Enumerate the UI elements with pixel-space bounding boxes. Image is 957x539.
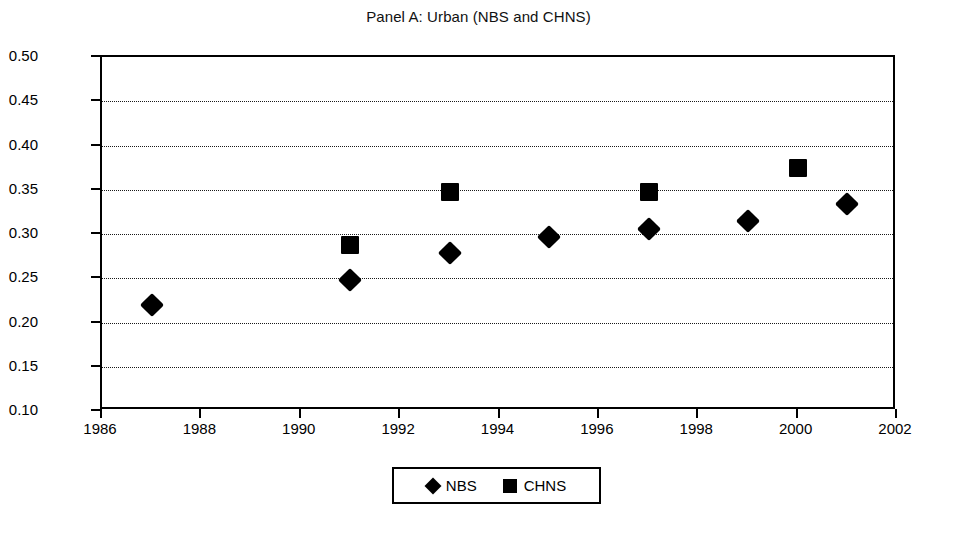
plot-area: [100, 55, 895, 409]
legend-label: NBS: [446, 477, 477, 494]
x-tick-mark: [796, 409, 798, 418]
square-marker-icon: [503, 479, 517, 493]
data-point-chns: [441, 183, 459, 201]
legend-label: CHNS: [524, 477, 567, 494]
data-point-nbs: [338, 268, 362, 292]
gridline-y: [102, 234, 893, 235]
gridline-y: [102, 323, 893, 324]
data-point-nbs: [637, 217, 661, 241]
data-point-chns: [789, 159, 807, 177]
gridline-y: [102, 367, 893, 368]
x-tick-label: 1990: [282, 420, 315, 437]
x-tick-mark: [398, 409, 400, 418]
x-tick-mark: [895, 409, 897, 418]
diamond-marker-icon: [424, 477, 441, 494]
x-tick-mark: [498, 409, 500, 418]
x-tick-mark: [199, 409, 201, 418]
legend-entry-chns[interactable]: CHNS: [503, 477, 567, 494]
x-tick-label: 1994: [481, 420, 514, 437]
x-tick-label: 2002: [878, 420, 911, 437]
x-tick-label: 1998: [680, 420, 713, 437]
gridline-y: [102, 101, 893, 102]
data-point-nbs: [736, 209, 760, 233]
plot-inner: [102, 57, 893, 407]
gridline-y: [102, 146, 893, 147]
x-tick-mark: [299, 409, 301, 418]
x-tick-mark: [696, 409, 698, 418]
chart-figure: Panel A: Urban (NBS and CHNS) 0.100.150.…: [0, 0, 957, 539]
data-point-chns: [640, 183, 658, 201]
data-point-nbs: [140, 293, 164, 317]
x-tick-label: 2000: [779, 420, 812, 437]
x-tick-label: 1988: [183, 420, 216, 437]
data-point-nbs: [835, 192, 859, 216]
x-tick-mark: [100, 409, 102, 418]
gridline-y: [102, 278, 893, 279]
x-tick-label: 1986: [83, 420, 116, 437]
x-tick-label: 1996: [580, 420, 613, 437]
data-point-nbs: [537, 225, 561, 249]
legend-entry-nbs[interactable]: NBS: [427, 477, 477, 494]
data-point-nbs: [438, 241, 462, 265]
x-tick-label: 1992: [381, 420, 414, 437]
chart-legend: NBSCHNS: [392, 467, 601, 504]
data-point-chns: [341, 236, 359, 254]
x-tick-mark: [597, 409, 599, 418]
gridline-y: [102, 190, 893, 191]
